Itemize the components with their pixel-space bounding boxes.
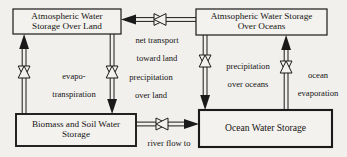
stock-box-atmospheric-water-storage-over-land[interactable] [13,9,121,34]
arrowhead-right-river-flow [184,119,199,129]
stock-box-atmospheric-water-storage-over-oceans[interactable] [196,9,327,35]
arrowhead-up-ocean-evaporation [281,35,291,50]
diagram-vector-layer [0,0,347,157]
bowtie-valve-icon-river-flow-to-oceans[interactable] [156,118,168,130]
stock-box-biomass-and-soil-water-storage[interactable] [16,114,136,146]
arrowhead-up-evapotranspiration [19,34,29,49]
bowtie-valve-icon-ocean-evaporation[interactable] [280,61,292,73]
bowtie-valve-icon-precipitation-over-land[interactable] [106,66,118,78]
bowtie-valve-icon-evapotranspiration[interactable] [18,66,30,78]
arrowhead-down-precipitation-over-oceans [200,95,210,110]
arrowhead-down-precipitation-over-land [107,99,117,114]
water-cycle-diagram: Atmospheric Water Storage Over Land Atms… [0,0,347,157]
bowtie-valve-icon-net-transport-toward-land[interactable] [154,14,166,26]
bowtie-valve-icon-precipitation-over-oceans[interactable] [199,55,211,67]
flow-pipe-precipitation-over-oceans[interactable] [200,35,210,110]
stock-box-ocean-water-storage[interactable] [199,110,332,147]
arrowhead-left-net-transport [121,15,136,25]
